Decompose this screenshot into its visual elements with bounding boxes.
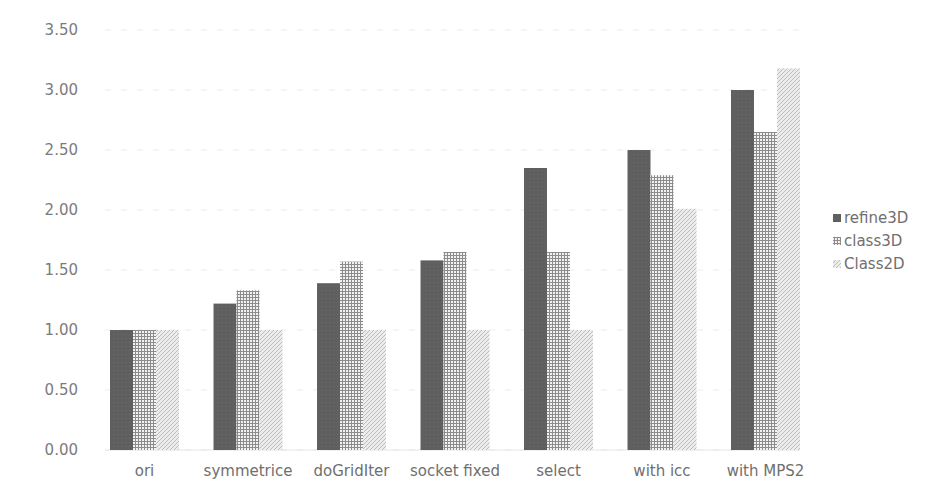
bar-class3D-select [547,252,570,450]
y-tick-label: 0.00 [45,441,78,459]
bar-Class2D-doGridIter [363,330,386,450]
bar-refine3D-doGridIter [317,283,340,450]
bars [110,68,800,450]
bar-Class2D-with-icc [674,209,697,450]
solid-square-icon [833,214,841,222]
y-tick-label: 2.50 [45,141,78,159]
bar-class3D-doGridIter [340,262,363,450]
bar-refine3D-socket-fixed [421,260,444,450]
x-category-label: doGridIter [314,462,391,480]
x-axis: orisymmetricedoGridItersocket fixedselec… [135,462,805,480]
y-tick-label: 3.50 [45,21,78,39]
y-tick-label: 2.00 [45,201,78,219]
y-tick-label: 1.50 [45,261,78,279]
bar-Class2D-select [570,330,593,450]
legend-label: Class2D [844,255,905,273]
legend-label: class3D [844,232,902,250]
y-tick-label: 0.50 [45,381,78,399]
y-tick-label: 3.00 [45,81,78,99]
bar-class3D-with-icc [651,175,674,450]
bar-Class2D-symmetrice [260,330,283,450]
hash-grid-icon [833,237,841,245]
legend-item-class3D: class3D [833,232,902,250]
bar-class3D-symmetrice [237,290,260,450]
y-tick-label: 1.00 [45,321,78,339]
x-category-label: with MPS2 [727,462,805,480]
bar-Class2D-ori [156,330,179,450]
bar-refine3D-ori [110,330,133,450]
bar-refine3D-symmetrice [214,304,237,450]
bar-class3D-ori [133,330,156,450]
bar-refine3D-with-icc [628,150,651,450]
x-category-label: symmetrice [204,462,293,480]
legend-item-refine3D: refine3D [833,209,908,227]
bar-class3D-with-MPS2 [754,132,777,450]
x-category-label: socket fixed [410,462,500,480]
legend-item-Class2D: Class2D [833,255,905,273]
x-category-label: select [536,462,581,480]
bar-refine3D-select [524,168,547,450]
bar-Class2D-socket-fixed [467,330,490,450]
diagonal-hatch-icon [833,260,841,268]
bar-Class2D-with-MPS2 [777,68,800,450]
bar-class3D-socket-fixed [444,252,467,450]
x-category-label: with icc [633,462,690,480]
bar-refine3D-with-MPS2 [731,90,754,450]
legend: refine3Dclass3DClass2D [833,209,908,273]
legend-label: refine3D [844,209,908,227]
bar-chart: 0.000.501.001.502.002.503.003.50 orisymm… [0,0,952,500]
x-category-label: ori [135,462,155,480]
